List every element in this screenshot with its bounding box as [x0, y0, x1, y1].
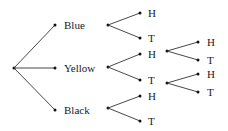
outcome-label-h: H [207, 68, 215, 80]
branch-line [108, 108, 140, 121]
outcome-label-t: T [148, 115, 155, 127]
branch-line [167, 74, 198, 83]
outcome-label-t: T [148, 74, 155, 86]
branch-line [167, 51, 198, 60]
node-dot [54, 109, 57, 112]
branch-line [14, 68, 55, 110]
node-dot [139, 120, 142, 123]
branch-line [14, 25, 55, 68]
outcome-label-t: T [207, 54, 214, 66]
tree-diagram: BlueYellowBlackHTHTHTHTHT [0, 0, 228, 131]
branch-line [108, 96, 140, 108]
node-dot [139, 95, 142, 98]
node-dot [197, 59, 200, 62]
branch-line [108, 25, 140, 38]
outcome-label-h: H [148, 7, 156, 19]
branch-line [108, 13, 140, 25]
node-dot [54, 24, 57, 27]
branch-line [167, 42, 198, 51]
outcome-label-h: H [207, 36, 215, 48]
outcome-label-t: T [148, 32, 155, 44]
node-label-blue: Blue [64, 19, 85, 31]
outcome-label-h: H [148, 90, 156, 102]
node-dot [197, 91, 200, 94]
node-dot [139, 53, 142, 56]
branch-line [108, 54, 140, 67]
outcome-label-t: T [207, 86, 214, 98]
node-dot [139, 79, 142, 82]
node-label-black: Black [64, 104, 90, 116]
node-label-yellow: Yellow [64, 62, 95, 74]
node-dot [197, 73, 200, 76]
node-dot [139, 12, 142, 15]
node-dot [197, 41, 200, 44]
outcome-label-h: H [148, 48, 156, 60]
branch-line [108, 67, 140, 80]
branch-line [167, 83, 198, 92]
node-dot [54, 67, 57, 70]
node-dot [139, 37, 142, 40]
